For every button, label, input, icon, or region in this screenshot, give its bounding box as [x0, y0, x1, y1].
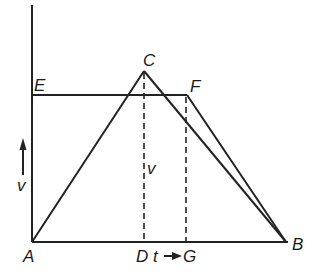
- label-A: A: [23, 248, 34, 265]
- line-CB: [144, 71, 286, 242]
- label-B: B: [292, 236, 303, 253]
- label-v-axis: v: [17, 177, 26, 194]
- label-D: D: [136, 248, 148, 265]
- label-t: t: [153, 248, 158, 265]
- t-arrow-head: [172, 252, 182, 260]
- line-AC: [32, 71, 144, 242]
- vt-diagram: [0, 0, 314, 275]
- label-v-inner: v: [147, 160, 156, 177]
- label-F: F: [190, 78, 200, 95]
- v-arrow-head: [20, 138, 27, 150]
- label-G: G: [183, 248, 196, 265]
- label-E: E: [34, 77, 45, 94]
- line-FB: [187, 95, 286, 242]
- label-C: C: [143, 52, 155, 69]
